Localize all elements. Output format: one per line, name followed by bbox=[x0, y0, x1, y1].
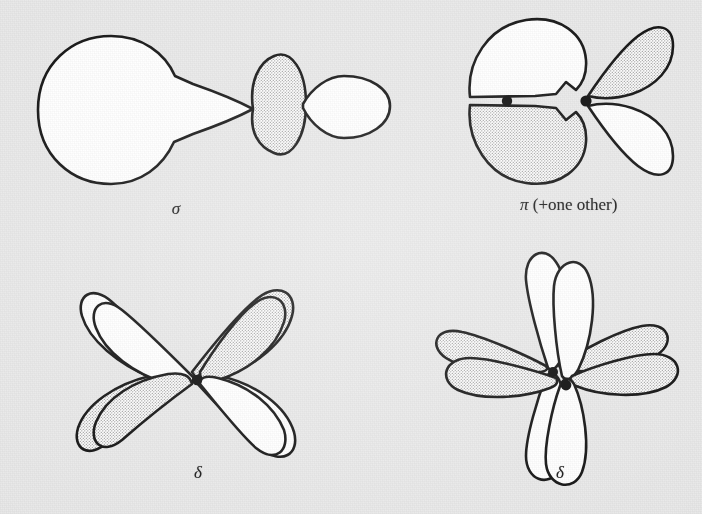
delta-left-front-lower-left-lobe bbox=[94, 373, 192, 446]
sigma-label: σ bbox=[146, 200, 206, 217]
delta-right-upper-nucleus-dot bbox=[548, 367, 558, 377]
delta-right-orbital-drawing bbox=[420, 248, 690, 473]
delta-left-front-upper-right-lobe bbox=[200, 297, 285, 382]
pi-label-suffix: (+one other) bbox=[529, 195, 618, 214]
pi-orbital-drawing bbox=[370, 10, 690, 195]
delta-left-orbital-drawing bbox=[60, 268, 330, 473]
pi-lower-right-lobe bbox=[588, 104, 673, 175]
sigma-label-text: σ bbox=[172, 199, 180, 218]
delta-left-label: δ bbox=[178, 464, 218, 481]
delta-left-front-lower-right-lobe bbox=[200, 377, 285, 455]
pi-upper-left-lobe bbox=[470, 19, 587, 97]
pi-right-nucleus-dot bbox=[580, 95, 591, 106]
pi-label-greek: π bbox=[520, 195, 529, 214]
delta-right-lower-nucleus-dot bbox=[561, 380, 572, 391]
sigma-large-left-lobe bbox=[38, 36, 253, 184]
delta-left-nucleus-dot bbox=[192, 375, 202, 385]
sigma-center-shaded-lobe bbox=[252, 55, 306, 155]
delta-right-label: δ bbox=[540, 464, 580, 481]
pi-left-nucleus-dot bbox=[502, 96, 512, 106]
delta-left-front-orbital bbox=[94, 297, 286, 455]
pi-lower-left-lobe bbox=[470, 105, 587, 184]
delta-left-label-text: δ bbox=[194, 463, 202, 482]
delta-right-front-orbital bbox=[446, 262, 678, 485]
delta-right-label-text: δ bbox=[556, 463, 564, 482]
panel-delta-left: δ bbox=[60, 268, 350, 503]
pi-upper-right-lobe bbox=[588, 27, 673, 98]
panel-sigma: σ bbox=[10, 18, 350, 218]
pi-label: π (+one other) bbox=[520, 196, 617, 213]
sigma-orbital-drawing bbox=[10, 18, 350, 203]
panel-pi: π (+one other) bbox=[370, 10, 690, 220]
panel-delta-right: δ bbox=[420, 248, 700, 503]
